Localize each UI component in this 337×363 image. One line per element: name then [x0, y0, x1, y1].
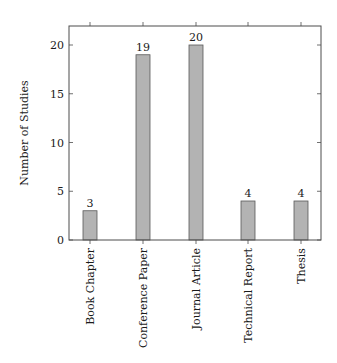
- bar-journal-article: [189, 45, 203, 240]
- y-axis-title: Number of Studies: [18, 80, 31, 186]
- x-tick-label: Conference Paper: [137, 247, 150, 348]
- bar-value-label: 4: [298, 187, 305, 200]
- bar-conference-paper: [136, 55, 150, 240]
- y-tick-label: 15: [50, 88, 64, 101]
- bar-technical-report: [241, 201, 255, 240]
- x-tick-label: Technical Report: [242, 247, 255, 342]
- bar-chart: 3192044 05101520 Book ChapterConference …: [0, 0, 337, 363]
- bar-value-label: 19: [136, 41, 150, 54]
- x-tick-label: Thesis: [295, 248, 308, 284]
- y-tick-label: 0: [57, 234, 64, 247]
- bars: [83, 45, 308, 240]
- bar-value-label: 3: [87, 197, 94, 210]
- x-tick-label: Book Chapter: [84, 247, 97, 325]
- y-tick-label: 20: [50, 39, 64, 52]
- bar-book-chapter: [83, 211, 97, 240]
- bar-thesis: [294, 201, 308, 240]
- bar-value-label: 4: [245, 187, 252, 200]
- x-tick-label: Journal Article: [190, 248, 203, 330]
- y-tick-label: 5: [57, 185, 64, 198]
- bar-value-label: 20: [189, 31, 203, 44]
- y-tick-label: 10: [50, 137, 64, 150]
